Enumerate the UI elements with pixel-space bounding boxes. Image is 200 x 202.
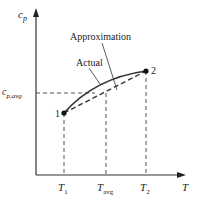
y-axis-arrow-icon — [33, 8, 39, 17]
cp-avg-label: cp,avg — [2, 86, 22, 100]
y-axis-label: cp — [18, 8, 27, 23]
tavg-tick-label: Tavg — [97, 181, 114, 196]
point-1 — [61, 110, 66, 115]
x-axis-arrow-icon — [177, 172, 186, 178]
cp-vs-temperature-diagram: cp T cp,avg Approximation Actual 1 2 T1 … — [0, 0, 200, 202]
actual-label: Actual — [76, 57, 103, 68]
actual-leader — [89, 68, 100, 84]
diagram-svg: cp T cp,avg Approximation Actual 1 2 T1 … — [0, 0, 200, 202]
point-1-label: 1 — [55, 108, 60, 119]
x-axis-label: T — [182, 181, 189, 193]
approximation-label: Approximation — [70, 31, 131, 42]
t2-tick-label: T2 — [140, 181, 150, 196]
approximation-line — [64, 71, 146, 113]
actual-curve — [64, 71, 146, 113]
t1-tick-label: T1 — [58, 181, 68, 196]
point-2 — [143, 68, 148, 73]
point-2-label: 2 — [151, 65, 156, 76]
